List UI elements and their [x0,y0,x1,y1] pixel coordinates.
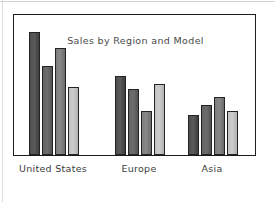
bar-group [29,14,79,155]
bar-group [188,14,238,155]
bar [128,89,139,155]
bar [201,105,212,155]
page-edge-top [0,1,275,2]
bar [68,87,79,155]
bar [188,115,199,155]
plot-area [14,14,255,155]
bar-group [115,14,165,155]
bar [55,48,66,155]
chart-frame: Sales by Region and Model [13,14,256,156]
bar [29,32,40,155]
bar [115,76,126,155]
bar [154,84,165,155]
bar [42,66,53,155]
chart-page: Sales by Region and Model United StatesE… [0,0,275,202]
bar [214,97,225,155]
category-label-asia: Asia [157,163,267,174]
bar [227,111,238,155]
bar [141,111,152,155]
